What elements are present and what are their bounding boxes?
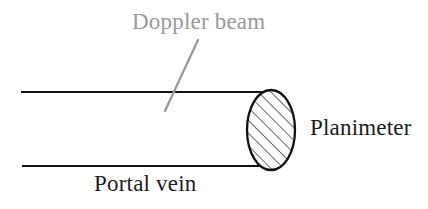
planimeter-label: Planimeter: [310, 116, 412, 139]
vessel-body: [22, 92, 273, 166]
cross-section-ellipse: [247, 90, 295, 170]
portal-vein-label: Portal vein: [94, 172, 197, 195]
figure-container: Doppler beam Planimeter Portal vein: [0, 0, 428, 209]
doppler-beam-leader-line: [165, 40, 198, 111]
doppler-beam-label: Doppler beam: [132, 10, 265, 33]
